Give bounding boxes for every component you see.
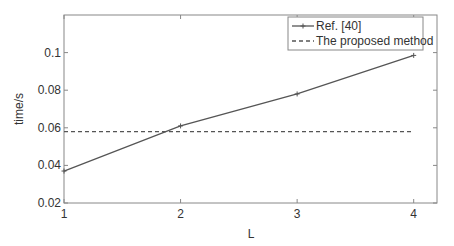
legend-label: The proposed method bbox=[316, 34, 433, 48]
legend: Ref. [40] The proposed method bbox=[288, 17, 433, 50]
y-tick-label: 0.02 bbox=[38, 196, 62, 210]
line-chart: 0.020.040.060.080.1 1234 time/s L Ref. [… bbox=[0, 0, 454, 246]
x-tick-label: 3 bbox=[294, 207, 301, 221]
x-tick-label: 1 bbox=[61, 207, 68, 221]
y-tick-label: 0.08 bbox=[38, 83, 62, 97]
y-axis-label: time/s bbox=[12, 93, 26, 125]
y-tick-label: 0.04 bbox=[38, 158, 62, 172]
y-tick-label: 0.1 bbox=[44, 46, 61, 60]
legend-label: Ref. [40] bbox=[316, 19, 361, 33]
x-tick-label: 2 bbox=[177, 207, 184, 221]
x-axis-label: L bbox=[248, 227, 255, 241]
x-tick-label: 4 bbox=[410, 207, 417, 221]
y-tick-label: 0.06 bbox=[38, 121, 62, 135]
